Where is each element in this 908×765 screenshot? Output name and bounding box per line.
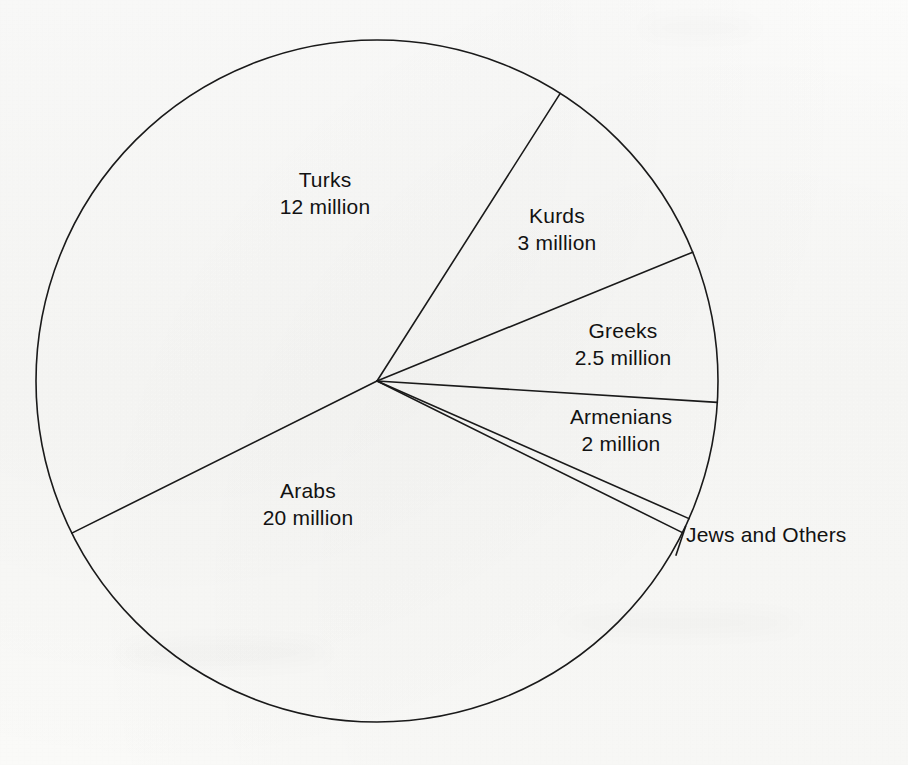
slice-value-greeks: 2.5 million bbox=[575, 344, 672, 371]
slice-label-kurds: Kurds3 million bbox=[518, 202, 597, 256]
slice-name-jews-and-others: Jews and Others bbox=[686, 521, 847, 548]
slice-value-kurds: 3 million bbox=[518, 229, 597, 256]
slice-value-arabs: 20 million bbox=[263, 504, 354, 531]
slice-name-armenians: Armenians bbox=[570, 403, 672, 430]
slice-name-greeks: Greeks bbox=[575, 317, 672, 344]
slice-label-armenians: Armenians2 million bbox=[570, 403, 672, 457]
slice-label-turks: Turks12 million bbox=[280, 166, 371, 220]
slice-label-jews-and-others: Jews and Others bbox=[686, 521, 847, 548]
slice-label-arabs: Arabs20 million bbox=[263, 477, 354, 531]
slice-label-greeks: Greeks2.5 million bbox=[575, 317, 672, 371]
slice-name-arabs: Arabs bbox=[263, 477, 354, 504]
slice-name-turks: Turks bbox=[280, 166, 371, 193]
pie-chart-page: Turks12 millionKurds3 millionGreeks2.5 m… bbox=[0, 0, 908, 765]
pie-chart-svg bbox=[0, 0, 908, 765]
slice-value-armenians: 2 million bbox=[570, 430, 672, 457]
pie-slice-divider bbox=[377, 381, 717, 402]
slice-name-kurds: Kurds bbox=[518, 202, 597, 229]
slice-value-turks: 12 million bbox=[280, 193, 371, 220]
pie-geometry-group bbox=[36, 40, 718, 722]
